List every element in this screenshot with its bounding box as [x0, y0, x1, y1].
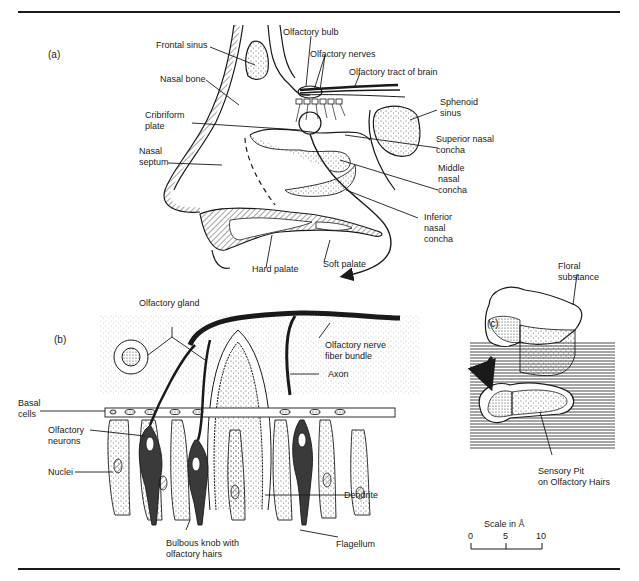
lock-and-key-diagram	[470, 287, 615, 450]
label-olfactory-nerve-fiber-bundle: Olfactory nerve fiber bundle	[325, 340, 386, 362]
label-olfactory-nerves: Olfactory nerves	[310, 49, 376, 60]
label-nasal-bone: Nasal bone	[160, 74, 206, 85]
scale-tick-10: 10	[536, 531, 546, 542]
label-axon: Axon	[328, 369, 349, 380]
label-middle-nasal-concha: Middle nasal concha	[438, 163, 467, 196]
label-hard-palate: Hard palate	[252, 264, 299, 275]
label-superior-nasal-concha: Superior nasal concha	[436, 134, 494, 156]
label-olfactory-tract: Olfactory tract of brain	[349, 67, 438, 78]
scale-tick-5: 5	[503, 531, 508, 542]
panel-a-label: (a)	[48, 49, 60, 60]
label-olfactory-bulb: Olfactory bulb	[283, 27, 339, 38]
olfactory-anatomy-illustration	[0, 0, 639, 581]
label-cribriform-plate: Cribriform plate	[145, 110, 185, 132]
label-basal-cells: Basal cells	[18, 398, 41, 420]
panel-b-label: (b)	[54, 334, 66, 345]
label-bulbous-knob: Bulbous knob with olfactory hairs	[166, 538, 239, 560]
scale-bar	[471, 543, 542, 549]
scale-tick-0: 0	[468, 531, 473, 542]
label-floral-substance: Floral substance	[558, 261, 599, 283]
label-olfactory-neurons: Olfactory neurons	[48, 425, 84, 447]
label-sphenoid-sinus: Sphenoid sinus	[440, 97, 478, 119]
label-sensory-pit: Sensory Pit on Olfactory Hairs	[538, 466, 610, 488]
nasal-cavity-diagram	[164, 25, 420, 276]
scale-title: Scale in Å	[484, 519, 525, 530]
panel-c-label: (c)	[487, 318, 499, 329]
label-nuclei: Nuclei	[48, 467, 73, 478]
label-flagellum: Flagellum	[336, 539, 375, 550]
label-dendrite: Dendrite	[344, 490, 378, 501]
label-inferior-nasal-concha: Inferior nasal concha	[424, 212, 453, 245]
label-frontal-sinus: Frontal sinus	[156, 40, 208, 51]
label-soft-palate: Soft palate	[323, 259, 366, 270]
label-olfactory-gland: Olfactory gland	[139, 298, 200, 309]
label-nasal-septum: Nasal septum	[139, 146, 169, 168]
